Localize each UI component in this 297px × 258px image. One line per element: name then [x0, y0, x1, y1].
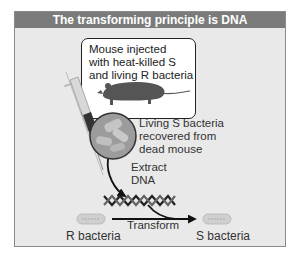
diagram-artwork — [0, 0, 297, 258]
extract-arrow — [108, 159, 125, 196]
s-bacteria-icon — [203, 214, 231, 224]
mouse-icon — [97, 82, 190, 105]
r-bacteria-icon — [77, 214, 105, 224]
bacteria-culture-icon — [90, 113, 136, 159]
dna-helix-icon — [104, 196, 175, 205]
dna-to-transform-arrow — [148, 205, 175, 219]
